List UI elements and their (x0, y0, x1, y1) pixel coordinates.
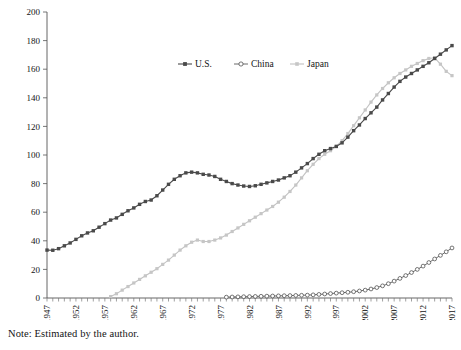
data-point-us (144, 200, 147, 203)
data-point-china (317, 293, 321, 297)
x-tick-label: 1952 (71, 305, 81, 320)
data-point-us (167, 183, 170, 186)
x-tick-label: 1957 (100, 305, 110, 321)
data-point-us (51, 249, 54, 252)
data-point-us (126, 209, 129, 212)
y-tick-label: 160 (27, 64, 41, 74)
data-point-japan (173, 254, 176, 257)
x-tick-label: 1967 (158, 305, 168, 321)
y-tick-label: 100 (27, 150, 41, 160)
figure-note: Note: Estimated by the author. (8, 328, 139, 339)
data-point-us (427, 61, 430, 64)
data-point-china (329, 292, 333, 296)
data-point-china (450, 246, 454, 250)
data-point-china (392, 279, 396, 283)
data-point-us (92, 229, 95, 232)
data-point-us (225, 180, 228, 183)
legend-label-japan: Japan (307, 59, 329, 69)
y-tick-label: 60 (31, 207, 41, 217)
data-point-us (190, 170, 193, 173)
data-point-china (236, 295, 240, 299)
data-point-us (178, 174, 181, 177)
data-point-us (387, 92, 390, 95)
data-point-japan (271, 205, 274, 208)
data-point-china (311, 293, 315, 297)
data-point-us (311, 157, 314, 160)
data-point-japan (450, 74, 453, 77)
data-point-china (282, 294, 286, 298)
data-point-china (439, 253, 443, 257)
data-point-us (213, 175, 216, 178)
y-tick-label: 40 (31, 236, 41, 246)
data-point-us (80, 234, 83, 237)
data-point-japan (161, 263, 164, 266)
data-point-japan (306, 169, 309, 172)
y-tick-label: 20 (31, 265, 41, 275)
data-point-us (248, 185, 251, 188)
data-point-us (138, 203, 141, 206)
data-point-us (230, 182, 233, 185)
data-point-us (421, 65, 424, 68)
data-point-japan (393, 76, 396, 79)
data-point-japan (381, 87, 384, 90)
data-point-us (184, 171, 187, 174)
legend-label-china: China (251, 59, 274, 69)
data-point-japan (202, 240, 205, 243)
data-point-us (115, 216, 118, 219)
legend-marker-china (239, 62, 243, 66)
data-point-japan (277, 201, 280, 204)
data-point-japan (254, 216, 257, 219)
x-tick-label: 1972 (187, 305, 197, 320)
data-point-us (329, 147, 332, 150)
x-tick-label: 1987 (274, 305, 284, 321)
data-point-us (445, 48, 448, 51)
data-point-japan (126, 285, 129, 288)
data-point-japan (213, 238, 216, 241)
data-point-china (398, 277, 402, 281)
data-point-us (271, 180, 274, 183)
data-point-us (392, 85, 395, 88)
data-point-japan (283, 196, 286, 199)
data-point-us (317, 153, 320, 156)
data-point-china (410, 271, 414, 275)
data-point-us (323, 149, 326, 152)
x-tick-label: 1997 (331, 305, 341, 321)
data-point-china (404, 274, 408, 278)
data-point-us (346, 135, 349, 138)
data-point-china (334, 291, 338, 295)
data-point-japan (410, 65, 413, 68)
data-point-china (300, 293, 304, 297)
x-tick-label: 2007 (389, 305, 399, 321)
data-point-us (450, 44, 453, 47)
data-point-china (346, 290, 350, 294)
data-point-us (340, 141, 343, 144)
data-point-china (381, 284, 385, 288)
data-point-china (375, 286, 379, 290)
data-point-us (86, 231, 89, 234)
data-point-japan (155, 267, 158, 270)
data-point-japan (300, 176, 303, 179)
series-line-japan (111, 58, 452, 297)
data-point-us (109, 218, 112, 221)
legend-marker-japan (295, 62, 299, 66)
data-point-china (415, 268, 419, 272)
data-point-japan (121, 289, 124, 292)
data-point-us (398, 80, 401, 83)
data-point-china (323, 292, 327, 296)
data-point-japan (375, 93, 378, 96)
legend-label-us: U.S. (195, 59, 212, 69)
data-point-china (242, 295, 246, 299)
data-point-us (45, 248, 48, 251)
data-point-us (68, 241, 71, 244)
data-point-us (283, 176, 286, 179)
x-tick-label: 1977 (216, 305, 226, 321)
plot-area: 0204060801001201401601802001947195219571… (0, 0, 461, 320)
data-point-japan (387, 81, 390, 84)
data-point-us (416, 68, 419, 71)
data-point-us (439, 52, 442, 55)
data-point-japan (219, 236, 222, 239)
line-chart-svg: 0204060801001201401601802001947195219571… (0, 0, 461, 320)
data-point-us (335, 145, 338, 148)
data-point-us (352, 129, 355, 132)
data-point-us (277, 178, 280, 181)
